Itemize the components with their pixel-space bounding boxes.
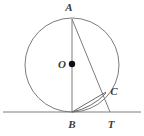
secant-segment-AT <box>72 19 110 112</box>
center-point-dot <box>69 61 75 67</box>
point-label-T: T <box>108 119 115 130</box>
point-label-O: O <box>58 59 66 70</box>
point-label-A: A <box>65 2 72 13</box>
geometry-figure: A O C B T <box>0 0 144 136</box>
figure-canvas <box>0 0 144 136</box>
point-label-C: C <box>110 86 117 97</box>
point-label-B: B <box>68 119 75 130</box>
